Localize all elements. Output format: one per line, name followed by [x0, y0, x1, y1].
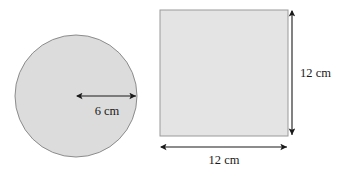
square-width-label: 12 cm	[209, 153, 240, 167]
figure-canvas: 6 cm 12 cm 12 cm	[0, 0, 342, 171]
circle-radius-label: 6 cm	[95, 104, 120, 118]
square-height-label: 12 cm	[300, 66, 331, 80]
geometry-figure: 6 cm 12 cm 12 cm	[0, 0, 342, 171]
square-shape	[160, 10, 288, 136]
circle-shape-group: 6 cm	[15, 35, 137, 157]
